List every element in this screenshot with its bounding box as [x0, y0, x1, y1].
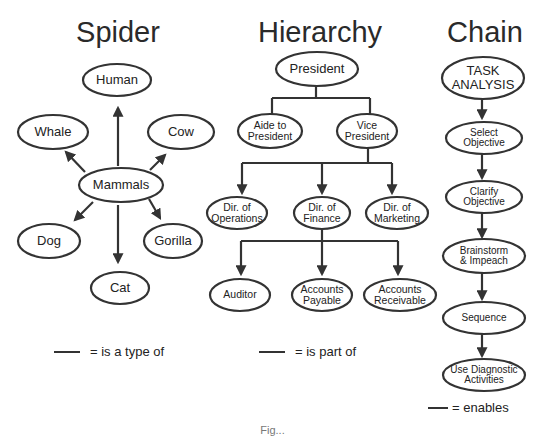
spider-node-whale: Whale — [18, 115, 88, 149]
hierarchy-node-president: President — [276, 52, 358, 86]
spider-legend: = is a type of — [54, 344, 164, 359]
spider-node-cat: Cat — [91, 272, 149, 304]
legend-line-icon — [428, 407, 448, 409]
hierarchy-node-accounts-receivable: Accounts Receivable — [364, 279, 436, 311]
spider-title: Spider — [68, 16, 168, 49]
spider-center-mammals: Mammals — [79, 168, 163, 202]
spider-node-cow: Cow — [148, 115, 214, 149]
chain-step-select-objective: Select Objective — [446, 122, 522, 154]
hierarchy-node-aide: Aide to President — [238, 114, 302, 148]
chain-legend: = enables — [428, 400, 509, 415]
chain-step-sequence: Sequence — [443, 302, 525, 334]
spider-node-dog: Dog — [18, 224, 80, 258]
hierarchy-node-accounts-payable: Accounts Payable — [292, 279, 352, 311]
spider-node-gorilla: Gorilla — [144, 224, 202, 258]
legend-line-icon — [259, 351, 285, 353]
chain-step-task-analysis: TASK ANALYSIS — [442, 57, 524, 99]
legend-line-icon — [54, 351, 80, 353]
hierarchy-legend-text: = is part of — [295, 344, 356, 359]
hierarchy-node-auditor: Auditor — [210, 279, 270, 311]
spider-legend-text: = is a type of — [90, 344, 164, 359]
figure-caption: Fig... — [0, 424, 545, 436]
hierarchy-node-dir-marketing: Dir. of Marketing — [366, 197, 428, 229]
chain-step-clarify-objective: Clarify Objective — [446, 181, 522, 213]
chain-step-brainstorm: Brainstorm & Impeach — [443, 239, 525, 273]
spider-node-human: Human — [83, 64, 151, 96]
hierarchy-node-vice-president: Vice President — [337, 114, 397, 148]
hierarchy-node-dir-finance: Dir. of Finance — [294, 197, 350, 229]
hierarchy-legend: = is part of — [259, 344, 356, 359]
hierarchy-node-dir-operations: Dir. of Operations — [207, 197, 267, 229]
chain-title: Chain — [440, 16, 530, 49]
hierarchy-title: Hierarchy — [250, 16, 390, 49]
chain-step-use-diagnostic: Use Diagnostic Activities — [443, 359, 525, 391]
chain-legend-text: = enables — [452, 400, 509, 415]
